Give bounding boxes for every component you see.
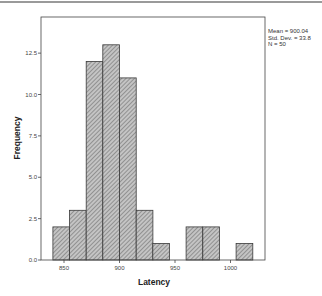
- y-tick-label: 5.0: [29, 174, 38, 180]
- histogram-bar: [53, 227, 70, 260]
- histogram-bar: [70, 210, 87, 260]
- x-axis-ticks: 8509009501000: [59, 260, 238, 271]
- histogram-bar: [86, 61, 103, 260]
- x-tick-label: 900: [114, 265, 125, 271]
- stat-n: N = 50: [268, 41, 311, 48]
- y-tick-label: 10.0: [25, 92, 37, 98]
- y-tick-label: 2.5: [29, 216, 38, 222]
- histogram-bar: [136, 210, 153, 260]
- y-tick-label: 12.5: [25, 50, 37, 56]
- stat-mean: Mean = 900.04: [268, 28, 311, 35]
- x-tick-label: 950: [170, 265, 181, 271]
- y-axis-ticks: 0.02.55.07.510.012.5: [25, 50, 41, 263]
- histogram-bars: [53, 45, 253, 260]
- histogram-bar: [186, 227, 203, 260]
- x-tick-label: 1000: [224, 265, 238, 271]
- histogram-bar: [103, 45, 120, 260]
- histogram-bar: [153, 243, 170, 260]
- histogram-bar: [120, 78, 137, 260]
- y-tick-label: 7.5: [29, 133, 38, 139]
- y-tick-label: 0.0: [29, 257, 38, 263]
- summary-statistics: Mean = 900.04 Std. Dev. = 33.8 N = 50: [268, 28, 311, 48]
- histogram-bar: [236, 243, 253, 260]
- x-axis-label: Latency: [138, 277, 170, 287]
- y-axis-label: Frequency: [12, 116, 22, 159]
- histogram-bar: [203, 227, 220, 260]
- x-tick-label: 850: [59, 265, 70, 271]
